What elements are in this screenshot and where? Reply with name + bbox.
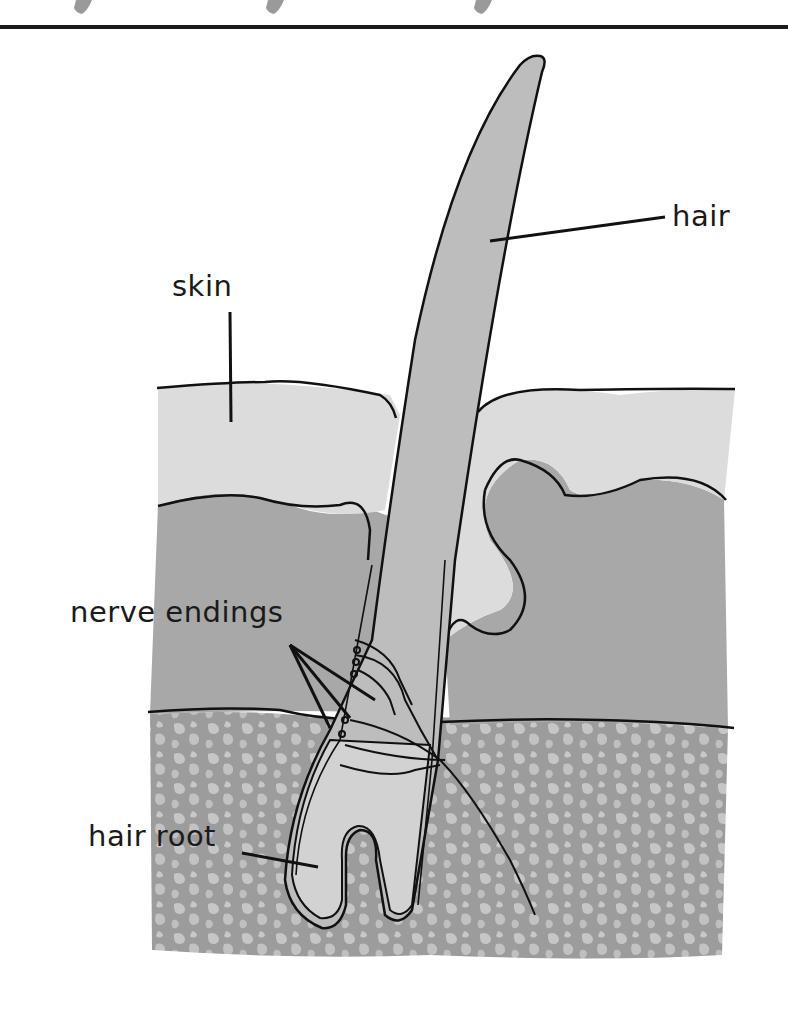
- top-divider: [0, 25, 788, 29]
- hair-diagram: [0, 0, 788, 1026]
- label-nerve-endings: nerve endings: [70, 598, 283, 627]
- skin-pointer: [230, 312, 231, 422]
- label-skin: skin: [172, 272, 232, 301]
- label-hair: hair: [672, 202, 730, 231]
- label-hair-root: hair root: [88, 822, 216, 851]
- hair-pointer: [490, 217, 665, 241]
- epidermis-layer: [158, 383, 400, 514]
- top-marks: [74, 0, 492, 14]
